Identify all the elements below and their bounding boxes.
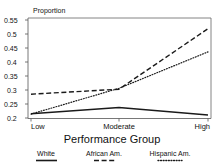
x-tick-label-low: Low	[31, 122, 45, 131]
legend-label-hispanic-am: Hispanic Am.	[150, 150, 191, 158]
x-tick-label-moderate: Moderate	[103, 122, 135, 131]
legend-label-african-am: African Am.	[86, 150, 122, 157]
y-tick-label-0.5: 0.5	[7, 31, 17, 38]
x-tick-label-high: High	[195, 122, 210, 131]
y-axis-title: Proportion	[33, 7, 65, 15]
y-tick-label-0.25: 0.25	[4, 101, 18, 108]
y-tick-label-0.35: 0.35	[4, 73, 18, 80]
y-tick-label-0.4: 0.4	[7, 59, 17, 66]
legend-label-white: White	[37, 150, 55, 157]
y-tick-label-0.3: 0.3	[7, 87, 17, 94]
x-axis-title: Performance Group	[64, 133, 161, 145]
y-tick-label-0.2: 0.2	[7, 115, 17, 122]
chart-figure: Proportion 0.55 0.5 0.45 0.4 0.35 0.3 0.…	[0, 0, 218, 165]
y-tick-label-0.55: 0.55	[4, 17, 18, 24]
y-tick-label-0.45: 0.45	[4, 45, 18, 52]
line-chart: Proportion 0.55 0.5 0.45 0.4 0.35 0.3 0.…	[0, 0, 218, 165]
